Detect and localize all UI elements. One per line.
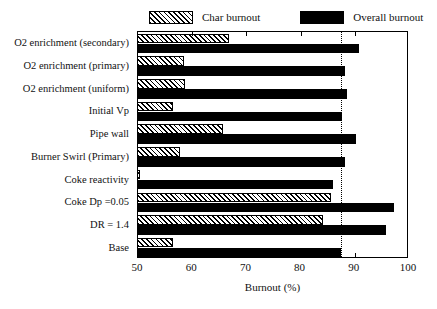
category-label: DR = 1.4 [90, 218, 129, 229]
x-axis-title: Burnout (%) [137, 281, 408, 293]
category-label: Burner Swirl (Primary) [31, 150, 129, 161]
bar-char-burnout [138, 79, 185, 89]
bar-overall-burnout [138, 225, 386, 235]
x-axis-tick-top [355, 32, 356, 36]
bar-overall-burnout [138, 248, 341, 258]
x-axis-tick [355, 253, 356, 257]
category-label: Base [109, 241, 129, 252]
bar-overall-burnout [138, 180, 333, 190]
legend-label-overall-burnout: Overall burnout [353, 12, 423, 23]
category-label: O2 enrichment (secondary) [14, 37, 129, 48]
plot-inner [138, 32, 407, 257]
bar-overall-burnout [138, 89, 347, 99]
plot-area [137, 31, 408, 258]
category-label: O2 enrichment (primary) [23, 60, 129, 71]
x-axis-tick [192, 253, 193, 257]
category-label: Coke Dp =0.05 [64, 196, 129, 207]
bar-char-burnout [138, 238, 173, 248]
category-label: O2 enrichment (uniform) [23, 82, 129, 93]
chart-legend: Char burnout Overall burnout [137, 7, 409, 27]
bar-char-burnout [138, 147, 180, 157]
hatched-swatch-icon [149, 11, 193, 24]
bar-overall-burnout [138, 134, 356, 144]
x-axis-tick-label: 80 [294, 262, 305, 273]
x-axis-tick [301, 253, 302, 257]
category-label: Pipe wall [90, 128, 129, 139]
category-label: Initial Vp [89, 105, 129, 116]
legend-label-char-burnout: Char burnout [202, 12, 260, 23]
bar-char-burnout [138, 215, 323, 225]
reference-line [341, 32, 342, 257]
bar-char-burnout [138, 124, 223, 134]
x-axis-tick-top [246, 32, 247, 36]
bar-overall-burnout [138, 44, 359, 54]
bar-char-burnout [138, 34, 229, 44]
bar-overall-burnout [138, 157, 345, 167]
category-axis-labels: O2 enrichment (secondary)O2 enrichment (… [0, 31, 133, 258]
x-axis-tick-top [192, 32, 193, 36]
x-axis-tick-label: 70 [240, 262, 251, 273]
bar-char-burnout [138, 193, 331, 203]
x-axis-tick-label: 60 [186, 262, 197, 273]
bar-char-burnout [138, 56, 184, 66]
burnout-bar-chart: Char burnout Overall burnout O2 enrichme… [0, 0, 437, 309]
x-axis-tick-label: 100 [400, 262, 417, 273]
x-axis-tick-label: 50 [132, 262, 143, 273]
bar-overall-burnout [138, 66, 345, 76]
bar-overall-burnout [138, 112, 342, 122]
bar-char-burnout [138, 102, 173, 112]
legend-entry-overall-burnout: Overall burnout [300, 11, 423, 24]
x-axis-tick-top [301, 32, 302, 36]
x-axis-tick-label: 90 [348, 262, 359, 273]
bar-char-burnout [138, 170, 140, 180]
bar-overall-burnout [138, 203, 394, 213]
category-label: Coke reactivity [65, 173, 129, 184]
solid-swatch-icon [300, 11, 344, 24]
legend-entry-char-burnout: Char burnout [149, 11, 260, 24]
x-axis-tick [246, 253, 247, 257]
